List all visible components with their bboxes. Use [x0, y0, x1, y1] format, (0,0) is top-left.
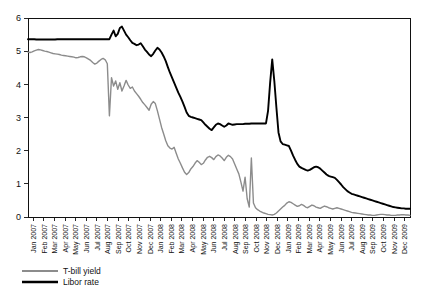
- x-tick-label: Apr 2008: [189, 224, 197, 253]
- x-tick-label: Dec 2007: [147, 224, 154, 254]
- chart-figure: 0123456 Jan 2007Feb 2007Mar 2007Apr 2007…: [0, 0, 427, 301]
- legend-label: Libor rate: [63, 277, 99, 287]
- x-tick-label: Apr 2009: [316, 224, 324, 253]
- x-tick-label: Sep 2009: [369, 224, 377, 254]
- x-tick-label: Feb 2007: [41, 224, 48, 254]
- x-tick-label: Jun 2008: [210, 224, 217, 253]
- y-tick-label: 6: [16, 13, 21, 23]
- y-tick-label: 2: [16, 146, 21, 156]
- x-tick-label: Jan 2007: [30, 224, 37, 253]
- x-tick-label: Nov 2008: [263, 224, 270, 254]
- x-axis-tick-labels: Jan 2007Feb 2007Mar 2007Apr 2007May 2007…: [30, 224, 408, 255]
- x-tick-label: Aug 2008: [232, 224, 240, 254]
- x-tick-label: Nov 2009: [391, 224, 398, 254]
- y-tick-label: 1: [16, 179, 21, 189]
- chart-legend: T-bill yieldLibor rate: [22, 266, 101, 287]
- x-tick-label: Sep 2008: [242, 224, 250, 254]
- y-tick-label: 5: [16, 46, 21, 56]
- x-tick-label: Aug 2007: [104, 224, 112, 254]
- x-tick-label: Dec 2009: [401, 224, 408, 254]
- x-tick-label: Feb 2009: [295, 224, 302, 254]
- x-tick-label: Nov 2007: [136, 224, 143, 254]
- x-tick-label: Jul 2007: [94, 224, 101, 251]
- x-tick-label: Apr 2007: [62, 224, 70, 253]
- x-tick-label: Dec 2008: [274, 224, 281, 254]
- y-tick-label: 0: [16, 212, 21, 222]
- x-tick-label: Jul 2009: [348, 224, 355, 251]
- x-tick-label: Mar 2009: [306, 224, 313, 254]
- y-axis-tick-marks: [24, 18, 28, 217]
- plot-frame: [28, 18, 410, 217]
- x-tick-label: Oct 2009: [380, 224, 387, 253]
- x-tick-label: Sep 2007: [115, 224, 123, 254]
- x-tick-label: Jun 2007: [83, 224, 90, 253]
- y-tick-label: 3: [16, 113, 21, 123]
- x-tick-label: Mar 2007: [51, 224, 58, 254]
- x-tick-label: Feb 2008: [168, 224, 175, 254]
- y-axis-tick-labels: 0123456: [16, 13, 21, 222]
- x-axis-tick-marks: [33, 217, 404, 221]
- x-tick-label: Aug 2009: [359, 224, 367, 254]
- series-lines: [28, 27, 410, 216]
- legend-label: T-bill yield: [63, 266, 101, 276]
- series-line-t-bill-yield: [28, 50, 410, 216]
- x-tick-label: Mar 2008: [178, 224, 185, 254]
- series-line-libor-rate: [28, 27, 410, 209]
- x-tick-label: May 2009: [327, 224, 335, 255]
- x-tick-label: Oct 2008: [253, 224, 260, 253]
- x-tick-label: Jan 2008: [157, 224, 164, 253]
- x-tick-label: Jul 2008: [221, 224, 228, 251]
- y-tick-label: 4: [16, 80, 21, 90]
- x-tick-label: May 2008: [200, 224, 208, 255]
- x-tick-label: Jun 2009: [338, 224, 345, 253]
- x-tick-label: Oct 2007: [125, 224, 132, 253]
- x-tick-label: Jan 2009: [285, 224, 292, 253]
- line-chart: 0123456 Jan 2007Feb 2007Mar 2007Apr 2007…: [0, 0, 427, 301]
- x-tick-label: May 2007: [72, 224, 80, 255]
